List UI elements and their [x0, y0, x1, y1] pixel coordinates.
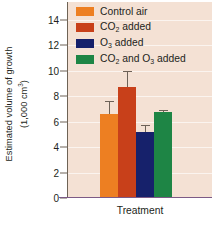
y-tick-label: 12	[33, 40, 59, 51]
legend-item-label: O3 added	[100, 37, 143, 51]
y-tick-mark	[60, 45, 67, 46]
gridline	[68, 96, 212, 97]
error-bar-cap	[159, 110, 168, 111]
y-tick-label: 0	[33, 193, 59, 204]
y-axis-units-pre: (1,000 cm	[19, 87, 29, 128]
gridline	[68, 122, 212, 123]
error-bar	[127, 71, 128, 88]
legend-swatch-icon	[76, 7, 94, 16]
y-tick-mark	[60, 96, 67, 97]
y-axis-units-exponent: 3	[17, 83, 24, 87]
legend-item-control-air[interactable]: Control air	[76, 4, 210, 19]
y-tick-label: 10	[33, 65, 59, 76]
y-axis-line	[67, 2, 68, 198]
y-axis-title: Estimated volume of growth (1,000 cm3)	[0, 0, 34, 208]
error-bar-cap	[123, 71, 132, 72]
legend-swatch-icon	[76, 39, 94, 48]
legend-swatch-icon	[76, 55, 94, 64]
y-tick-label: 14	[33, 14, 59, 25]
bar-chart-figure: Estimated volume of growth (1,000 cm3) 0…	[0, 0, 212, 226]
y-axis-title-line2: (1,000 cm3)	[15, 47, 30, 162]
x-axis-title: Treatment	[68, 205, 212, 216]
bar	[154, 112, 172, 198]
error-bar-cap	[105, 101, 114, 102]
bar	[100, 114, 118, 198]
x-axis-line	[59, 197, 212, 198]
gridline	[68, 71, 212, 72]
legend-item-co2-added[interactable]: CO2 added	[76, 20, 210, 35]
error-bar-cap	[141, 125, 150, 126]
chart-legend: Control airCO2 addedO3 addedCO2 and O3 a…	[76, 4, 210, 68]
y-tick-mark	[60, 19, 67, 20]
legend-item-co2-and-o3-added[interactable]: CO2 and O3 added	[76, 52, 210, 67]
y-tick-label: 8	[33, 91, 59, 102]
y-axis-tick-labels: 02468101214	[33, 0, 59, 226]
y-tick-mark	[60, 147, 67, 148]
error-bar	[145, 125, 146, 132]
y-axis-units-post: )	[19, 80, 29, 83]
y-tick-mark	[60, 172, 67, 173]
y-tick-label: 4	[33, 142, 59, 153]
legend-item-label: Control air	[100, 6, 148, 17]
error-bar	[109, 101, 110, 114]
y-axis-title-line1: Estimated volume of growth	[4, 47, 15, 162]
y-tick-label: 2	[33, 167, 59, 178]
y-tick-mark	[60, 70, 67, 71]
y-tick-label: 6	[33, 116, 59, 127]
legend-swatch-icon	[76, 23, 94, 32]
bar	[136, 132, 154, 198]
legend-item-label: CO2 and O3 added	[100, 53, 186, 67]
legend-item-o3-added[interactable]: O3 added	[76, 36, 210, 51]
y-tick-mark	[60, 121, 67, 122]
legend-item-label: CO2 added	[100, 21, 151, 35]
bar	[118, 87, 136, 198]
